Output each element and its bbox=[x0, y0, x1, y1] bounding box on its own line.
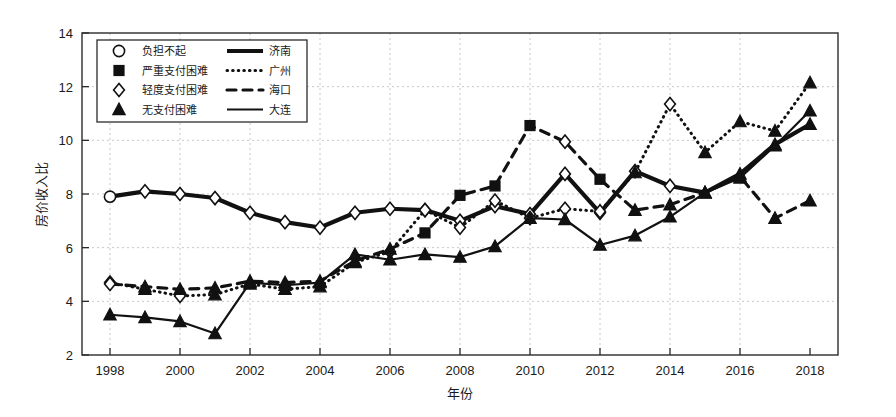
x-tick-label: 2006 bbox=[376, 363, 405, 378]
marker-circle-unaffordable bbox=[104, 191, 115, 202]
marker-diamond-mild-difficulty bbox=[665, 98, 676, 111]
marker-square-severe-difficulty bbox=[420, 228, 430, 238]
marker-diamond-mild-difficulty bbox=[385, 202, 396, 215]
x-axis-ticks: 1998200020022004200620082010201220142016… bbox=[96, 348, 825, 378]
x-tick-label: 2018 bbox=[796, 363, 825, 378]
y-tick-label: 4 bbox=[66, 294, 73, 309]
legend-city-label: 济南 bbox=[269, 44, 291, 58]
marker-diamond-mild-difficulty bbox=[175, 187, 186, 200]
legend-marker-label: 无支付困难 bbox=[142, 104, 197, 117]
x-tick-label: 2016 bbox=[726, 363, 755, 378]
marker-square-severe-difficulty bbox=[455, 190, 465, 200]
marker-square-severe-difficulty bbox=[114, 66, 124, 76]
legend-city-label: 广州 bbox=[269, 65, 291, 78]
legend-city-label: 海口 bbox=[269, 83, 291, 97]
marker-circle-unaffordable bbox=[113, 45, 124, 56]
x-tick-label: 2008 bbox=[446, 363, 475, 378]
marker-square-severe-difficulty bbox=[525, 121, 535, 131]
marker-diamond-mild-difficulty bbox=[665, 179, 676, 192]
x-tick-label: 1998 bbox=[96, 363, 125, 378]
marker-diamond-mild-difficulty bbox=[245, 206, 256, 219]
x-tick-label: 2014 bbox=[656, 363, 685, 378]
x-tick-label: 2010 bbox=[516, 363, 545, 378]
series-markers-济南 bbox=[104, 118, 816, 234]
y-tick-label: 10 bbox=[59, 133, 73, 148]
marker-diamond-mild-difficulty bbox=[210, 191, 221, 204]
marker-triangle-no-difficulty bbox=[804, 104, 816, 116]
legend-marker-label: 负担不起 bbox=[142, 44, 186, 58]
y-axis-ticks: 2468101214 bbox=[59, 26, 89, 363]
housing-price-income-ratio-line-chart: 2468101214 19982000200220042006200820102… bbox=[0, 0, 896, 417]
legend-city-label: 大连 bbox=[269, 103, 291, 117]
chart-legend: 负担不起严重支付困难轻度支付困难无支付困难济南广州海口大连 bbox=[97, 40, 307, 122]
y-axis-title: 房价收入比 bbox=[34, 162, 49, 227]
marker-diamond-mild-difficulty bbox=[105, 277, 116, 290]
x-tick-label: 2004 bbox=[306, 363, 335, 378]
y-tick-label: 8 bbox=[66, 187, 73, 202]
marker-diamond-mild-difficulty bbox=[140, 185, 151, 198]
marker-triangle-no-difficulty bbox=[804, 76, 816, 88]
x-tick-label: 2002 bbox=[236, 363, 265, 378]
marker-triangle-no-difficulty bbox=[734, 115, 746, 127]
x-tick-label: 2012 bbox=[586, 363, 615, 378]
chart-figure: 2468101214 19982000200220042006200820102… bbox=[0, 0, 896, 417]
marker-triangle-no-difficulty bbox=[349, 248, 361, 260]
y-tick-label: 12 bbox=[59, 80, 73, 95]
marker-triangle-no-difficulty bbox=[629, 229, 641, 241]
y-tick-label: 2 bbox=[66, 348, 73, 363]
legend-marker-label: 严重支付困难 bbox=[142, 64, 208, 78]
marker-diamond-mild-difficulty bbox=[280, 216, 291, 229]
y-tick-label: 6 bbox=[66, 241, 73, 256]
y-tick-label: 14 bbox=[59, 26, 73, 41]
legend-marker-label: 轻度支付困难 bbox=[142, 83, 208, 97]
marker-diamond-mild-difficulty bbox=[350, 206, 361, 219]
marker-square-severe-difficulty bbox=[595, 174, 605, 184]
marker-triangle-no-difficulty bbox=[804, 194, 816, 206]
marker-triangle-no-difficulty bbox=[664, 210, 676, 222]
marker-square-severe-difficulty bbox=[490, 181, 500, 191]
x-axis-title: 年份 bbox=[447, 386, 473, 401]
x-tick-label: 2000 bbox=[166, 363, 195, 378]
marker-diamond-mild-difficulty bbox=[315, 221, 326, 234]
marker-triangle-no-difficulty bbox=[804, 118, 816, 130]
